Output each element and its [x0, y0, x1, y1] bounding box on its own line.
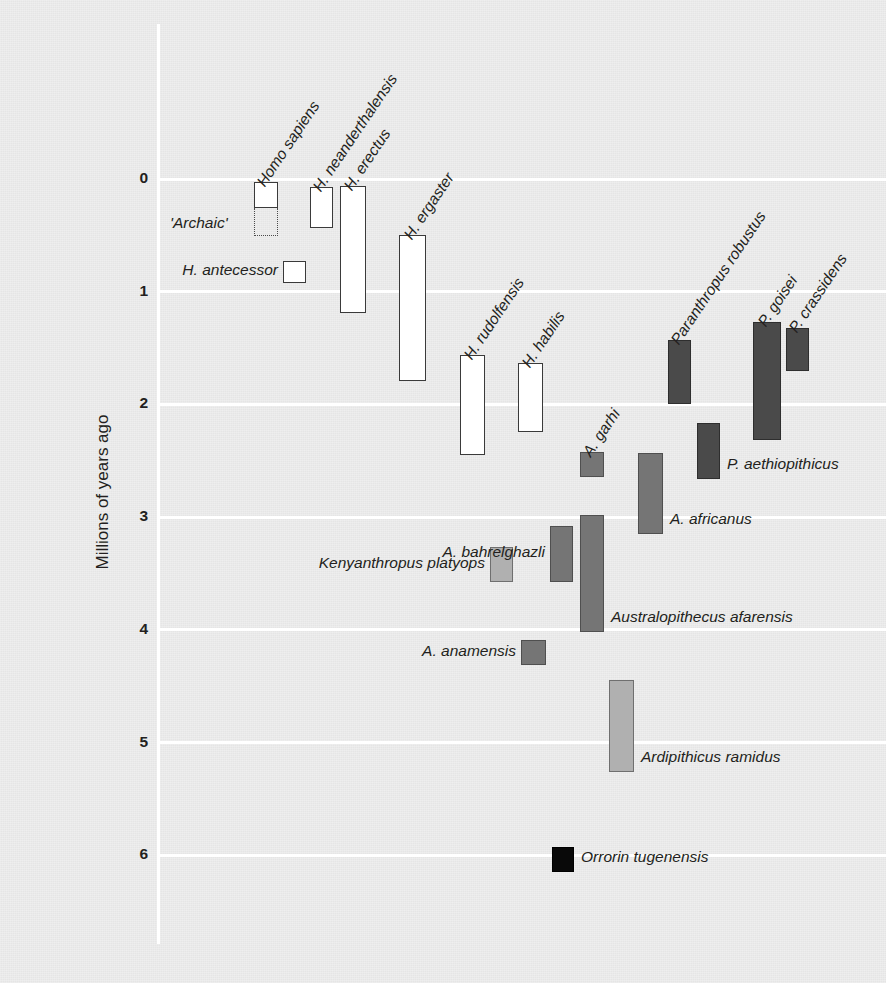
gridline-5 — [157, 741, 886, 744]
label-orrorin-tugenensis: Orrorin tugenensis — [581, 848, 709, 866]
y-tick-label: 6 — [108, 845, 148, 863]
bar-p-goisei[interactable] — [753, 322, 781, 440]
y-tick-label: 3 — [108, 507, 148, 525]
gridline-6 — [157, 854, 886, 857]
bar-h-erectus[interactable] — [340, 186, 366, 313]
bar-ardipithicus-ramidus[interactable] — [609, 680, 634, 772]
bar-paranthropus-robustus[interactable] — [668, 340, 691, 404]
y-tick-label: 0 — [108, 169, 148, 187]
bar-a-anamensis[interactable] — [521, 640, 546, 665]
label-homo-sapiens: Homo sapiens — [253, 98, 323, 190]
y-tick-label: 4 — [108, 620, 148, 638]
label-ardipithicus-ramidus: Ardipithicus ramidus — [641, 748, 781, 766]
bar-h-ergaster[interactable] — [399, 235, 426, 381]
label-a-africanus: A. africanus — [670, 510, 752, 528]
y-axis-label-container: Millions of years ago — [6, 0, 50, 983]
chart-canvas: Millions of years ago 0123456 'Archaic'H… — [0, 0, 886, 983]
label-p-aethiopithicus: P. aethiopithicus — [727, 455, 839, 473]
y-tick-label: 1 — [108, 282, 148, 300]
y-tick-label: 2 — [108, 394, 148, 412]
label-h-habilis: H. habilis — [518, 308, 569, 371]
label-a-anamensis: A. anamensis — [422, 642, 516, 660]
y-tick-label: 5 — [108, 733, 148, 751]
label-h-antecessor: H. antecessor — [182, 261, 278, 279]
bar-h-habilis[interactable] — [518, 363, 543, 432]
bar-archaic[interactable] — [254, 208, 278, 236]
label-archaic: 'Archaic' — [170, 214, 228, 232]
bar-p-aethiopithicus[interactable] — [697, 423, 720, 479]
bar-a-bahrelghazli[interactable] — [550, 526, 573, 582]
y-axis-label: Millions of years ago — [93, 414, 113, 569]
label-p-crassidens: P. crassidens — [785, 250, 851, 336]
bar-h-rudolfensis[interactable] — [460, 355, 485, 455]
gridline-4 — [157, 628, 886, 631]
bar-h-antecessor[interactable] — [283, 261, 306, 283]
y-axis-line — [157, 24, 160, 944]
gridline-3 — [157, 516, 886, 519]
bar-australopithecus-afarensis[interactable] — [580, 515, 604, 632]
label-h-rudolfensis: H. rudolfensis — [460, 274, 528, 363]
label-australopithecus-afarensis: Australopithecus afarensis — [611, 608, 793, 626]
label-a-bahrelghazli: A. bahrelghazli — [442, 543, 545, 561]
bar-orrorin-tugenensis[interactable] — [552, 847, 574, 872]
bar-a-africanus[interactable] — [638, 453, 663, 534]
